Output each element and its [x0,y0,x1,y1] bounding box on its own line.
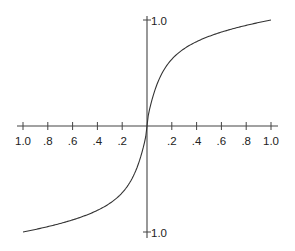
x-tick-label: .6 [217,135,227,147]
x-tick-label: .4 [192,135,202,147]
chart: 1.0.8.6.4.2.2.4.6.81.0 1.01.0 [0,0,295,251]
x-tick-label: .2 [117,135,127,147]
y-tick-label: 1.0 [151,227,167,239]
x-tick-label: .4 [93,135,103,147]
x-tick-label: .6 [68,135,78,147]
x-tick-label: .2 [167,135,177,147]
x-tick-label: 1.0 [15,135,31,147]
axes [17,16,278,238]
x-tick-label: 1.0 [263,135,279,147]
x-tick-label: .8 [43,135,53,147]
y-tick-label: 1.0 [151,15,167,27]
x-tick-label: .8 [241,135,251,147]
